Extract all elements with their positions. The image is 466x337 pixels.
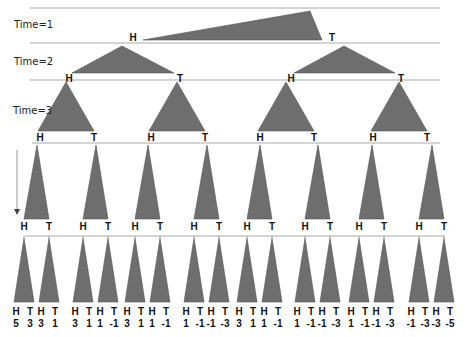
leaf-value: 1 [183, 319, 189, 329]
tree-node-level-4 [83, 145, 108, 219]
branch-label-tails: T [91, 133, 97, 143]
leaf-value: 1 [294, 319, 300, 329]
leaf-label-tails: T [362, 307, 368, 317]
down-arrow-icon [14, 209, 20, 215]
branch-label-heads: H [36, 133, 43, 143]
tree-node-level-3 [371, 82, 427, 131]
leaf-value: 1 [261, 319, 267, 329]
leaf-value: -1 [318, 319, 327, 329]
leaf-value: 1 [138, 319, 144, 329]
leaf-label-heads: H [123, 307, 130, 317]
leaf-value: 5 [13, 319, 19, 329]
branch-label-heads: H [79, 222, 86, 232]
leaf-value: -1 [207, 319, 216, 329]
leaf-value: 3 [38, 319, 44, 329]
tree-node-level-5 [262, 238, 282, 302]
leaf-value: -3 [221, 319, 230, 329]
tree-diagram [0, 0, 466, 337]
leaf-label-heads: H [71, 307, 78, 317]
time-label-2: Time=2 [14, 57, 53, 67]
leaf-label-tails: T [52, 307, 58, 317]
branch-label-tails: T [216, 222, 222, 232]
tree-node-level-4 [247, 145, 272, 219]
leaf-label-heads: H [235, 307, 242, 317]
tree-node-level-5 [434, 238, 454, 302]
leaf-value: -1 [274, 319, 283, 329]
tree-node-level-5 [184, 238, 204, 302]
branch-label-tails: T [398, 74, 404, 84]
branch-label-heads: H [131, 222, 138, 232]
leaf-value: -3 [332, 319, 341, 329]
leaf-label-tails: T [222, 307, 228, 317]
leaf-value: 1 [97, 319, 103, 329]
branch-label-tails: T [202, 133, 208, 143]
branch-label-heads: H [20, 222, 27, 232]
time-label-3: Time=3 [13, 106, 52, 116]
leaf-label-tails: T [333, 307, 339, 317]
leaf-label-heads: H [96, 307, 103, 317]
tree-node-level-4 [24, 145, 49, 219]
branch-label-heads: H [65, 74, 72, 84]
leaf-label-tails: T [111, 307, 117, 317]
leaf-label-heads: H [12, 307, 19, 317]
tree-node-level-4 [305, 145, 330, 219]
branch-label-tails: T [105, 222, 111, 232]
tree-node-level-5 [295, 238, 315, 302]
tree-node-level-5 [237, 238, 257, 302]
tree-node-level-4 [359, 145, 384, 219]
leaf-label-tails: T [308, 307, 314, 317]
tree-node-level-3 [258, 82, 314, 131]
leaf-value: -3 [386, 319, 395, 329]
leaf-value: -1 [307, 319, 316, 329]
branch-label-tails: T [424, 133, 430, 143]
leaf-label-heads: H [318, 307, 325, 317]
branch-label-heads: H [256, 133, 263, 143]
tree-node-level-5 [73, 238, 93, 302]
branch-label-heads: H [129, 33, 136, 43]
branch-label-tails: T [157, 222, 163, 232]
tree-node-level-5 [39, 238, 59, 302]
leaf-label-heads: H [432, 307, 439, 317]
branch-label-tails: T [269, 222, 275, 232]
branch-label-heads: H [301, 222, 308, 232]
time-label-1: Time=1 [14, 20, 53, 30]
branch-label-tails: T [329, 33, 335, 43]
tree-node-level-5 [374, 238, 394, 302]
leaf-value: -1 [162, 319, 171, 329]
tree-node-level-5 [320, 238, 340, 302]
leaf-label-heads: H [182, 307, 189, 317]
tree-node-level-5 [14, 238, 34, 302]
branch-label-tails: T [441, 222, 447, 232]
tree-node-level-1 [143, 11, 322, 40]
leaf-value: -1 [110, 319, 119, 329]
leaf-label-tails: T [447, 307, 453, 317]
leaf-value: -1 [407, 319, 416, 329]
leaf-label-heads: H [207, 307, 214, 317]
tree-node-level-5 [150, 238, 170, 302]
tree-node-level-5 [209, 238, 229, 302]
tree-node-level-4 [419, 145, 444, 219]
leaf-label-tails: T [86, 307, 92, 317]
branch-label-heads: H [415, 222, 422, 232]
tree-node-level-5 [409, 238, 429, 302]
leaf-label-heads: H [347, 307, 354, 317]
leaf-label-heads: H [293, 307, 300, 317]
tree-node-level-4 [194, 145, 219, 219]
branch-label-tails: T [381, 222, 387, 232]
branch-label-heads: H [190, 222, 197, 232]
tree-node-level-3 [149, 82, 205, 131]
leaf-label-heads: H [148, 307, 155, 317]
leaf-label-tails: T [27, 307, 33, 317]
leaf-label-heads: H [260, 307, 267, 317]
leaf-label-heads: H [37, 307, 44, 317]
leaf-value: 1 [250, 319, 256, 329]
leaf-value: 1 [348, 319, 354, 329]
tree-node-level-2 [294, 46, 395, 73]
leaf-label-tails: T [275, 307, 281, 317]
tree-node-level-5 [349, 238, 369, 302]
leaf-value: -1 [361, 319, 370, 329]
leaf-value: 3 [236, 319, 242, 329]
branch-label-tails: T [46, 222, 52, 232]
leaf-label-tails: T [197, 307, 203, 317]
branch-label-heads: H [243, 222, 250, 232]
